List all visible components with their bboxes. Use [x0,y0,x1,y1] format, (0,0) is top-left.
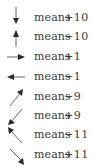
arrow-legend: means +10 means −10 means +1 [0,0,92,167]
legend-row-down: means +10 [0,8,92,28]
legend-row-up-left: means −11 [0,125,92,145]
legend-value: +10 [64,11,89,25]
legend-row-up: means −10 [0,27,92,47]
legend-value: −1 [64,70,81,84]
arrow-up-right-icon [0,87,30,107]
legend-value: +1 [64,50,81,64]
legend-row-right: means +1 [0,47,92,67]
arrow-down-right-icon [0,145,30,165]
arrow-down-icon [0,8,30,28]
legend-value: −10 [64,30,89,44]
legend-row-left: means −1 [0,67,92,87]
legend-row-down-left: means +9 [0,106,92,126]
arrow-down-left-icon [0,106,30,126]
arrow-left-icon [0,67,30,87]
legend-value: +11 [64,148,89,162]
arrow-up-left-icon [0,125,30,145]
arrow-up-icon [0,27,30,47]
legend-row-down-right: means +11 [0,145,92,165]
arrow-right-icon [0,47,30,67]
legend-value: −9 [64,90,81,104]
legend-value: +9 [64,109,81,123]
legend-row-up-right: means −9 [0,87,92,107]
legend-value: −11 [64,128,89,142]
